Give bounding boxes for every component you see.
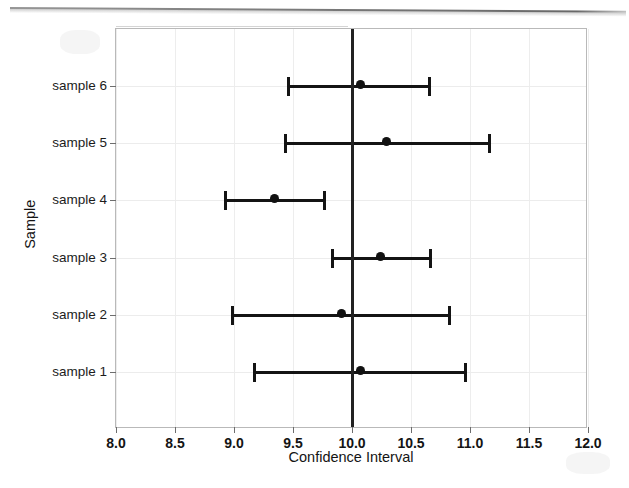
mean-marker [356, 80, 365, 89]
x-tick-label: 11.0 [457, 436, 483, 450]
error-bar-cap-upper [428, 77, 431, 96]
error-bar-cap-upper [488, 134, 491, 153]
x-tick-mark [411, 427, 412, 433]
y-tick-label-sample-1: sample 1 [52, 365, 107, 379]
x-tick-mark [588, 427, 589, 433]
x-tick-label: 10.5 [397, 436, 424, 450]
x-tick-mark [116, 427, 117, 433]
error-bar-cap-lower [224, 191, 227, 210]
mean-marker [382, 137, 391, 146]
x-tick-label: 10.0 [338, 436, 365, 450]
y-tick-label-sample-2: sample 2 [52, 308, 107, 322]
error-bar-cap-upper [464, 363, 467, 382]
x-tick-mark [234, 427, 235, 433]
error-bar-cap-lower [287, 77, 290, 96]
x-tick-mark [293, 427, 294, 433]
error-bar-cap-upper [323, 191, 326, 210]
mean-marker [376, 252, 385, 261]
x-axis-title: Confidence Interval [115, 450, 587, 465]
y-axis-title: Sample [23, 176, 38, 272]
error-bar-cap-lower [331, 249, 334, 268]
error-bar-cap-lower [284, 134, 287, 153]
x-tick-label: 8.0 [106, 436, 125, 450]
y-tick-label-sample-6: sample 6 [52, 79, 107, 93]
x-tick-mark [529, 427, 530, 433]
x-tick-label: 8.5 [165, 436, 184, 450]
x-tick-mark [352, 427, 353, 433]
confidence-interval-chart: Sample Confidence Interval 8.08.59.09.51… [0, 0, 629, 488]
plot-area: 8.08.59.09.510.010.511.011.512.0 sample … [115, 28, 587, 428]
y-tick-label-sample-3: sample 3 [52, 251, 107, 265]
mean-marker [337, 309, 346, 318]
error-bar-cap-lower [253, 363, 256, 382]
x-tick-mark [175, 427, 176, 433]
x-tick-label: 11.5 [516, 436, 542, 450]
error-bar-cap-lower [231, 306, 234, 325]
error-bar-cap-upper [448, 306, 451, 325]
x-tick-label: 9.0 [224, 436, 243, 450]
x-tick-label: 9.5 [283, 436, 302, 450]
x-tick-mark [470, 427, 471, 433]
y-tick-label-sample-4: sample 4 [52, 194, 107, 208]
error-bar-cap-upper [429, 249, 432, 268]
reference-line-10 [351, 29, 354, 427]
gridline-vertical [588, 29, 589, 427]
x-tick-label: 12.0 [574, 436, 601, 450]
mean-marker [356, 366, 365, 375]
y-tick-label-sample-5: sample 5 [52, 137, 107, 151]
